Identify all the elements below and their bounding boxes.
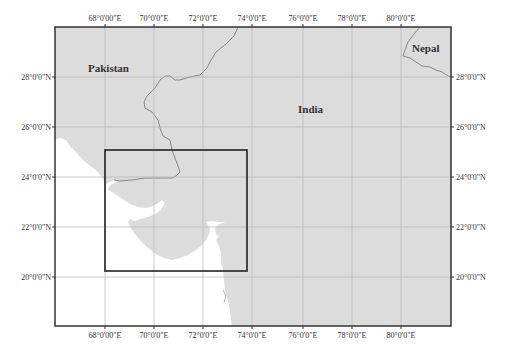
lon-label: 78°0'0"E — [338, 14, 367, 23]
country-label-pakistan: Pakistan — [88, 62, 129, 74]
country-label-nepal: Nepal — [412, 42, 440, 54]
lon-label: 76°0'0"E — [289, 14, 318, 23]
bottom-longitude-labels: 68°0'00"E 70°0'0"E 72°0'0"E 74°0'0"E 76°… — [89, 331, 416, 340]
lon-label: 72°0'0"E — [189, 14, 218, 23]
lat-label: 26°0'0"N — [456, 123, 486, 132]
lat-label: 24°0'0"N — [456, 173, 486, 182]
left-latitude-labels: 28°0'0"N 26°0'0"N 24°0'0"N 22°0'0"N 20°0… — [21, 73, 51, 282]
lon-label: 76°0'0"E — [289, 331, 318, 340]
lon-label: 72°0'0"E — [189, 331, 218, 340]
lat-label: 28°0'0"N — [456, 73, 486, 82]
lon-label: 80°0'0"E — [387, 331, 416, 340]
lat-label: 26°0'0"N — [21, 123, 51, 132]
lat-label: 22°0'0"N — [21, 223, 51, 232]
lat-label: 24°0'0"N — [21, 173, 51, 182]
lon-label: 70°0'0"E — [140, 331, 169, 340]
lat-label: 28°0'0"N — [21, 73, 51, 82]
lon-label: 74°0'0"E — [238, 331, 267, 340]
lon-label: 74°0'0"E — [238, 14, 267, 23]
lon-label: 68°0'00"E — [89, 14, 122, 23]
lon-label: 78°0'0"E — [338, 331, 367, 340]
lat-label: 20°0'0"N — [21, 273, 51, 282]
lon-label: 80°0'0"E — [387, 14, 416, 23]
map-figure: 68°0'00"E 70°0'0"E 72°0'0"E 74°0'0"E 76°… — [0, 0, 509, 358]
lat-label: 20°0'0"N — [456, 273, 486, 282]
lon-label: 70°0'0"E — [140, 14, 169, 23]
country-label-india: India — [298, 103, 324, 115]
right-latitude-labels: 28°0'0"N 26°0'0"N 24°0'0"N 22°0'0"N 20°0… — [456, 73, 486, 282]
top-longitude-labels: 68°0'00"E 70°0'0"E 72°0'0"E 74°0'0"E 76°… — [89, 14, 416, 23]
lat-label: 22°0'0"N — [456, 223, 486, 232]
lon-label: 68°0'00"E — [89, 331, 122, 340]
